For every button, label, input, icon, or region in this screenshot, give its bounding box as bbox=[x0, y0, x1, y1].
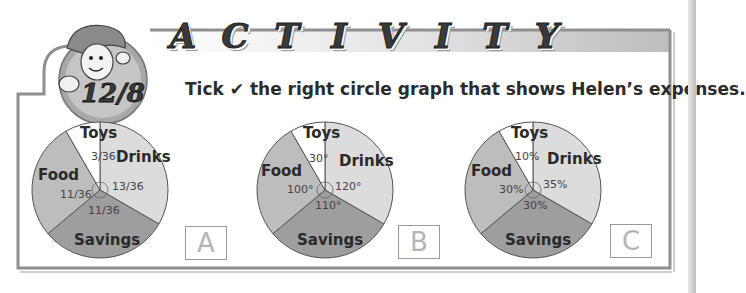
pie-c-value-food: 30% bbox=[499, 183, 523, 196]
pie-a-label-toys: Toys bbox=[80, 124, 117, 142]
title-letter: T bbox=[264, 16, 310, 56]
pie-b-value-food: 100° bbox=[287, 183, 314, 196]
instruction-prefix: Tick bbox=[185, 79, 224, 99]
pie-c-label-toys: Toys bbox=[511, 124, 548, 142]
pie-c-label-food: Food bbox=[471, 162, 512, 180]
title-letter: V bbox=[368, 16, 414, 56]
pie-b-value-drinks: 120° bbox=[335, 180, 362, 193]
pie-b-value-savings: 110° bbox=[315, 199, 342, 212]
mascot-badge: 12/8 bbox=[81, 78, 145, 108]
activity-title: A C T I V I T Y bbox=[160, 16, 570, 56]
pie-chart-a: Toys 3/36 Drinks 13/36 Savings 11/36 Foo… bbox=[30, 120, 170, 260]
option-c-checkbox[interactable]: C bbox=[610, 224, 652, 258]
tick-icon: ✔ bbox=[230, 79, 244, 99]
pie-b-value-toys: 30° bbox=[309, 152, 329, 165]
pie-c-value-toys: 10% bbox=[515, 150, 539, 163]
instruction-text: Tick ✔ the right circle graph that shows… bbox=[185, 79, 746, 99]
pie-c-label-savings: Savings bbox=[505, 231, 571, 249]
option-b-checkbox[interactable]: B bbox=[398, 225, 440, 259]
pie-a-value-drinks: 13/36 bbox=[112, 180, 144, 193]
pie-a-label-drinks: Drinks bbox=[116, 148, 170, 166]
pie-c-value-drinks: 35% bbox=[543, 178, 567, 191]
mascot-illustration: 12/8 bbox=[45, 18, 155, 128]
title-letter: I bbox=[316, 16, 362, 56]
pie-b-label-toys: Toys bbox=[303, 124, 340, 142]
instruction-body: the right circle graph that shows Helen’… bbox=[250, 79, 746, 99]
option-a-letter: A bbox=[197, 228, 215, 258]
pie-c-value-savings: 30% bbox=[523, 199, 547, 212]
pie-a-value-toys: 3/36 bbox=[91, 150, 116, 163]
pie-a-value-food: 11/36 bbox=[60, 188, 92, 201]
title-letter: A bbox=[160, 16, 206, 56]
pie-b-label-drinks: Drinks bbox=[339, 152, 394, 170]
option-b-letter: B bbox=[410, 227, 428, 257]
option-a-checkbox[interactable]: A bbox=[185, 226, 227, 260]
pie-b-label-food: Food bbox=[261, 162, 302, 180]
title-letter: C bbox=[212, 16, 258, 56]
pie-chart-c: Toys 10% Drinks 35% Savings 30% Food 30% bbox=[463, 120, 603, 260]
pie-c-label-drinks: Drinks bbox=[547, 150, 602, 168]
pie-a-label-food: Food bbox=[38, 166, 79, 184]
title-letter: Y bbox=[524, 16, 570, 56]
pie-a-label-savings: Savings bbox=[74, 231, 140, 249]
pie-b-label-savings: Savings bbox=[297, 231, 363, 249]
title-letter: I bbox=[420, 16, 466, 56]
title-letter: T bbox=[472, 16, 518, 56]
pie-a-value-savings: 11/36 bbox=[88, 204, 120, 217]
page-edge bbox=[688, 0, 696, 293]
pie-chart-b: Toys 30° Drinks 120° Savings 110° Food 1… bbox=[255, 120, 395, 260]
option-c-letter: C bbox=[622, 226, 640, 256]
